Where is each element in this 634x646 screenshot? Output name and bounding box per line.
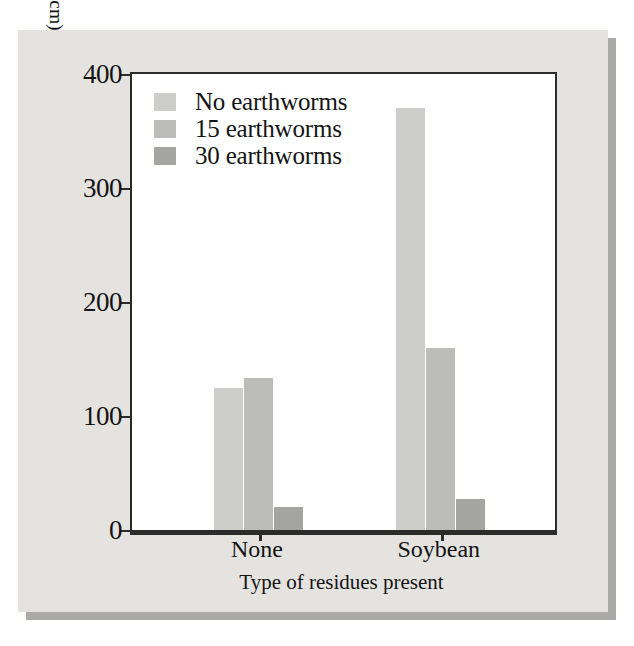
bar-soybean-no-earthworms <box>396 108 425 530</box>
y-tick-label: 200 <box>83 287 122 318</box>
x-axis-title: Type of residues present <box>130 570 553 595</box>
x-group-label-none: None <box>231 536 283 563</box>
bar-none-no-earthworms <box>214 388 243 531</box>
legend-swatch-icon <box>154 120 176 138</box>
figure-root: Cumulative infiltration of water in 3 ho… <box>0 0 634 646</box>
legend-item: 15 earthworms <box>154 115 347 142</box>
bar-none-30-earthworms <box>274 507 303 530</box>
legend-item: No earthworms <box>154 88 347 115</box>
plot-frame: 0100200300400 No earthworms15 earthworms… <box>130 72 557 535</box>
legend-swatch-icon <box>154 93 176 111</box>
legend-item: 30 earthworms <box>154 142 347 169</box>
y-axis-title: Cumulative infiltration of water in 3 ho… <box>45 0 71 72</box>
y-axis-title-text: Cumulative infiltration of water in 3 ho… <box>45 0 67 72</box>
bar-none-15-earthworms <box>244 378 273 530</box>
y-tick-label: 400 <box>83 59 122 90</box>
y-tick-label: 0 <box>109 515 122 546</box>
bar-soybean-30-earthworms <box>456 499 485 530</box>
legend-item-label: No earthworms <box>195 88 347 116</box>
x-group-label-soybean: Soybean <box>397 536 480 563</box>
bar-soybean-15-earthworms <box>426 348 455 530</box>
chart-legend: No earthworms15 earthworms30 earthworms <box>154 88 347 169</box>
y-tick-label: 300 <box>83 173 122 204</box>
legend-swatch-icon <box>154 147 176 165</box>
plot-area: 0100200300400 No earthworms15 earthworms… <box>132 74 555 530</box>
y-tick-label: 100 <box>83 401 122 432</box>
legend-item-label: 30 earthworms <box>195 142 342 170</box>
legend-item-label: 15 earthworms <box>195 115 342 143</box>
